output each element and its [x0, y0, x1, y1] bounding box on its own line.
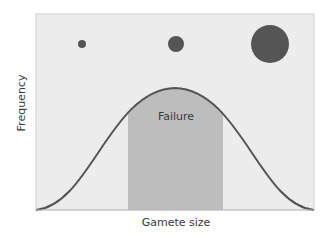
small-gamete-icon	[78, 40, 86, 48]
large-gamete-icon	[251, 25, 289, 63]
failure-label: Failure	[158, 110, 194, 123]
medium-gamete-icon	[168, 36, 184, 52]
gamete-size-diagram: Failure Gamete size Frequency	[0, 0, 329, 236]
x-axis-label: Gamete size	[142, 216, 211, 229]
y-axis-label: Frequency	[15, 74, 28, 131]
